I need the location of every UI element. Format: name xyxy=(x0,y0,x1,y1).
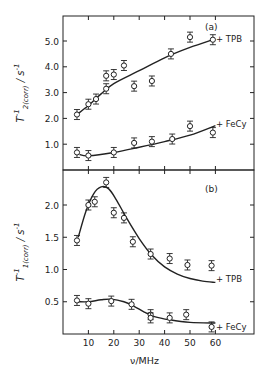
series-label: + TPB xyxy=(216,34,242,44)
x-tick-label: 20 xyxy=(108,338,120,348)
data-point xyxy=(74,150,79,155)
y-tick-label: 3.0 xyxy=(45,88,60,98)
panel-label: (a) xyxy=(205,22,218,32)
data-point xyxy=(210,130,215,135)
panel-b: 0.51.01.52.0102030405060T-11(corr) / s-1… xyxy=(13,170,254,366)
data-point xyxy=(111,150,116,155)
data-point xyxy=(149,139,154,144)
data-point xyxy=(109,299,114,304)
y-tick-label: 0.5 xyxy=(45,297,59,307)
fit-curve xyxy=(78,299,215,323)
series-fecy: + FeCy xyxy=(74,119,246,161)
y-tick-label: 4.0 xyxy=(45,62,60,72)
fit-curve xyxy=(80,126,216,156)
data-point xyxy=(121,63,126,68)
data-point xyxy=(74,238,79,243)
data-point xyxy=(104,86,109,91)
data-point xyxy=(170,136,175,141)
data-point xyxy=(104,180,109,185)
y-axis-label: T-12(corr) / s-1 xyxy=(13,64,30,123)
data-point xyxy=(74,298,79,303)
y-tick-label: 1.0 xyxy=(45,140,60,150)
series-fecy: + FeCy xyxy=(74,295,246,332)
panel-a: 1.02.03.04.05.0T-12(corr) / s-1(a)+ TPB+… xyxy=(13,16,254,170)
data-point xyxy=(149,78,154,83)
y-tick-label: 1.0 xyxy=(45,265,60,275)
x-tick-label: 50 xyxy=(184,338,196,348)
y-axis-label: T-11(corr) / s-1 xyxy=(13,223,30,282)
data-point xyxy=(148,315,153,320)
data-point xyxy=(184,312,189,317)
data-point xyxy=(92,199,97,204)
data-point xyxy=(167,256,172,261)
plot-frame xyxy=(63,170,254,334)
data-point xyxy=(104,73,109,78)
data-point xyxy=(86,102,91,107)
data-point xyxy=(168,51,173,56)
x-axis-label: ν/MHz xyxy=(130,355,159,366)
data-point xyxy=(86,202,91,207)
data-point xyxy=(111,72,116,77)
data-point xyxy=(111,210,116,215)
data-point xyxy=(209,324,214,329)
series-tpb: + TPB xyxy=(74,32,242,119)
data-point xyxy=(86,153,91,158)
series-label: + TPB xyxy=(216,274,242,284)
series-label: + FeCy xyxy=(216,119,246,129)
fit-curve xyxy=(77,40,213,115)
data-point xyxy=(132,84,137,89)
x-tick-label: 40 xyxy=(159,338,171,348)
data-point xyxy=(130,239,135,244)
data-point xyxy=(86,301,91,306)
panel-label: (b) xyxy=(205,184,218,194)
y-tick-label: 5.0 xyxy=(45,37,60,47)
y-tick-label: 1.5 xyxy=(45,233,59,243)
y-tick-label: 2.0 xyxy=(45,201,60,211)
x-tick-label: 60 xyxy=(210,338,222,348)
data-point xyxy=(167,315,172,320)
data-point xyxy=(132,140,137,145)
data-point xyxy=(93,96,98,101)
fit-curve xyxy=(78,187,215,283)
data-point xyxy=(74,112,79,117)
data-point xyxy=(210,37,215,42)
data-point xyxy=(209,263,214,268)
data-point xyxy=(187,35,192,40)
data-point xyxy=(187,124,192,129)
x-tick-label: 30 xyxy=(133,338,145,348)
figure: 1.02.03.04.05.0T-12(corr) / s-1(a)+ TPB+… xyxy=(0,0,267,372)
data-point xyxy=(148,251,153,256)
data-point xyxy=(185,262,190,267)
series-label: + FeCy xyxy=(216,322,246,332)
data-point xyxy=(121,215,126,220)
data-point xyxy=(129,302,134,307)
x-tick-label: 10 xyxy=(83,338,95,348)
y-tick-label: 2.0 xyxy=(45,114,60,124)
